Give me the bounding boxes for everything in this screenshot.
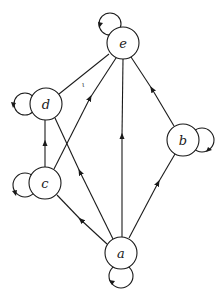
node-c: c bbox=[29, 167, 61, 199]
edges bbox=[45, 54, 175, 244]
node-d: d bbox=[30, 88, 62, 120]
loop-arrow-e bbox=[98, 22, 103, 28]
node-label-e: e bbox=[119, 36, 127, 51]
node-label-a: a bbox=[117, 246, 125, 261]
annotation-mark: ι bbox=[82, 81, 85, 89]
edge-a-d bbox=[80, 172, 113, 239]
node-a: a bbox=[105, 237, 137, 269]
loop-arrow-d bbox=[11, 102, 16, 108]
loop-arrow-c bbox=[12, 190, 17, 196]
node-b: b bbox=[167, 124, 199, 156]
node-label-d: d bbox=[42, 97, 50, 112]
loop-arrow-a bbox=[109, 280, 115, 285]
node-label-c: c bbox=[41, 176, 49, 191]
edge-a-c bbox=[81, 220, 107, 244]
node-e: e bbox=[107, 27, 139, 59]
node-label-b: b bbox=[179, 133, 187, 148]
graph-diagram: e d b c a ι bbox=[0, 0, 223, 296]
edge-b-e bbox=[152, 89, 174, 126]
edge-a-b bbox=[129, 183, 158, 238]
